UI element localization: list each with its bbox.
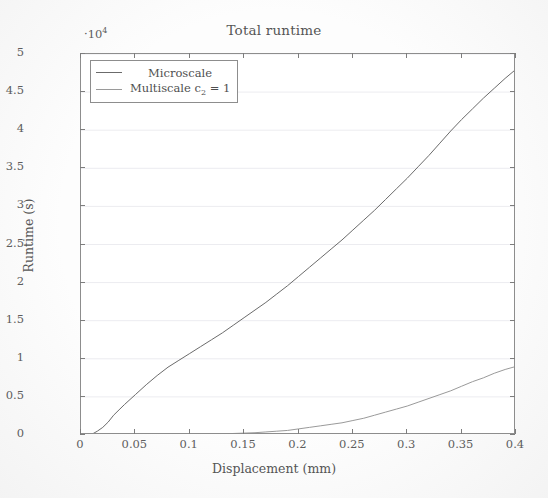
y-tick-label: 1 xyxy=(17,350,24,364)
y-tick-label: 0.5 xyxy=(6,388,24,402)
x-axis-tick xyxy=(515,429,516,434)
y-axis-tick xyxy=(510,282,515,283)
x-axis-tick xyxy=(406,53,407,58)
y-axis-tick xyxy=(80,167,85,168)
x-tick-label: 0.2 xyxy=(288,437,306,451)
y-axis-tick xyxy=(510,320,515,321)
x-tick-label: 0.35 xyxy=(448,437,474,451)
y-multiplier-exponent: 4 xyxy=(102,26,107,35)
x-axis-tick xyxy=(134,429,135,434)
y-axis-tick xyxy=(510,129,515,130)
legend-line-icon-multiscale xyxy=(96,89,122,90)
y-axis-tick xyxy=(80,91,85,92)
x-axis-tick xyxy=(461,429,462,434)
gridlines-group xyxy=(81,54,515,434)
x-axis-tick xyxy=(243,429,244,434)
legend-item-multiscale: Multiscale c2 = 1 xyxy=(96,81,230,98)
y-axis-tick xyxy=(80,205,85,206)
legend-label-microscale: Microscale xyxy=(148,66,212,80)
y-axis-tick xyxy=(510,434,515,435)
x-axis-tick xyxy=(298,429,299,434)
y-axis-tick xyxy=(80,434,85,435)
y-axis-tick xyxy=(510,167,515,168)
x-axis-tick xyxy=(80,53,81,58)
curves-layer xyxy=(81,54,515,434)
y-axis-multiplier: ·104 xyxy=(84,26,107,41)
x-axis-tick xyxy=(298,53,299,58)
y-axis-title: Runtime (s) xyxy=(21,146,36,326)
x-axis-tick xyxy=(80,429,81,434)
x-tick-label: 0.1 xyxy=(180,437,198,451)
x-axis-tick xyxy=(352,53,353,58)
y-axis-tick xyxy=(510,205,515,206)
plot-area xyxy=(80,53,515,434)
y-multiplier-base: ·10 xyxy=(84,27,102,41)
legend: Microscale Multiscale c2 = 1 xyxy=(90,60,238,103)
x-axis-tick xyxy=(243,53,244,58)
x-axis-tick xyxy=(352,429,353,434)
y-axis-tick xyxy=(80,244,85,245)
legend-label-multiscale-main: Multiscale c xyxy=(130,81,201,95)
y-tick-label: 4.5 xyxy=(6,83,24,97)
x-tick-label: 0.05 xyxy=(122,437,148,451)
legend-item-microscale: Microscale xyxy=(96,64,230,81)
x-tick-label: 0.25 xyxy=(339,437,365,451)
y-axis-tick xyxy=(80,396,85,397)
x-axis-tick xyxy=(189,53,190,58)
x-axis-tick xyxy=(134,53,135,58)
y-axis-tick xyxy=(510,91,515,92)
y-axis-tick xyxy=(510,396,515,397)
x-axis-tick xyxy=(406,429,407,434)
x-tick-label: 0.4 xyxy=(506,437,524,451)
chart-title: Total runtime xyxy=(0,22,548,38)
series-line-microscale xyxy=(81,69,515,434)
y-tick-label: 4 xyxy=(17,121,24,135)
figure-total-runtime: Total runtime ·104 00.511.522.533.544.55… xyxy=(0,0,548,498)
y-axis-tick xyxy=(510,244,515,245)
x-axis-tick xyxy=(189,429,190,434)
x-tick-label: 0.15 xyxy=(230,437,256,451)
y-axis-tick xyxy=(80,282,85,283)
x-tick-label: 0 xyxy=(76,437,83,451)
legend-label-multiscale-tail: = 1 xyxy=(206,81,230,95)
y-tick-label: 0 xyxy=(17,426,24,440)
series-line-multiscale xyxy=(81,366,515,434)
y-axis-tick xyxy=(80,358,85,359)
x-axis-tick xyxy=(461,53,462,58)
y-tick-label: 5 xyxy=(17,45,24,59)
y-axis-tick xyxy=(80,320,85,321)
legend-label-multiscale: Multiscale c2 = 1 xyxy=(130,81,230,97)
y-axis-tick xyxy=(80,129,85,130)
y-axis-tick xyxy=(510,358,515,359)
legend-line-icon-microscale xyxy=(96,72,122,73)
x-tick-label: 0.3 xyxy=(397,437,415,451)
x-axis-title: Displacement (mm) xyxy=(0,461,548,476)
x-axis-tick xyxy=(515,53,516,58)
